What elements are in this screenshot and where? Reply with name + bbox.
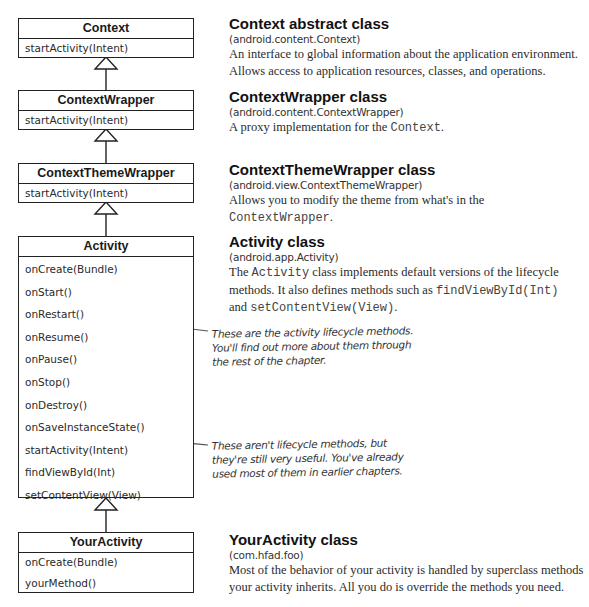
class-box-contextthemewrapper: ContextThemeWrapper startActivity(Intent… [18,163,194,203]
code-text: Context [390,121,440,135]
description-package: (com.hfad.foo) [229,548,589,562]
method-yourmethod: yourMethod() [19,573,193,593]
description-title: Activity class [229,233,569,250]
class-name: ContextWrapper [19,91,193,111]
description-contextwrapper: ContextWrapper class (android.content.Co… [229,88,589,137]
body-text: . [394,300,397,314]
class-box-youractivity: YourActivity onCreate(Bundle) yourMethod… [18,532,194,593]
method-oncreate: onCreate(Bundle) [19,258,193,281]
inheritance-arrow-contextthemewrapper-to-contextwrapper [95,129,117,163]
method-findviewbyid: findViewById(Int) [19,461,193,484]
description-title: ContextThemeWrapper class [229,161,489,178]
description-package: (android.view.ContextThemeWrapper) [229,178,489,192]
method-onstart: onStart() [19,281,193,304]
code-text: findViewById(Int) [436,284,558,298]
body-text: A proxy implementation for the [229,120,390,134]
code-text: setContentView(View) [250,301,394,315]
annotation-line: used most of them in earlier chapters. [212,463,404,480]
body-text: . [441,120,444,134]
method-onstop: onStop() [19,371,193,394]
description-activity: Activity class (android.app.Activity) Th… [229,233,569,317]
method-ondestroy: onDestroy() [19,394,193,417]
body-text: Most of the behavior of your activity is… [229,563,583,594]
description-body: Most of the behavior of your activity is… [229,562,589,595]
method-onresume: onResume() [19,326,193,349]
lifecycle-methods-annotation: These are the activity lifecycle methods… [212,323,414,369]
description-youractivity: YourActivity class (com.hfad.foo) Most o… [229,531,589,595]
description-body: The Activity class implements default ve… [229,264,569,317]
utility-methods-annotation: These aren't lifecycle methods, but they… [212,435,404,480]
description-body: An interface to global information about… [229,46,589,79]
body-text: and [229,300,250,314]
description-body: A proxy implementation for the Context. [229,119,589,137]
method-setcontentview: setContentView(View) [19,484,193,507]
code-text: ContextWrapper [229,211,330,225]
description-package: (android.content.Context) [229,32,589,46]
code-text: Activity [252,266,310,280]
description-title: ContextWrapper class [229,88,589,105]
description-package: (android.content.ContextWrapper) [229,105,589,119]
method: startActivity(Intent) [19,111,193,129]
description-contextthemewrapper: ContextThemeWrapper class (android.view.… [229,161,489,226]
description-title: Context abstract class [229,15,589,32]
body-text: The [229,265,252,279]
method: startActivity(Intent) [19,184,193,202]
class-box-activity: Activity onCreate(Bundle) onStart() onRe… [18,236,194,498]
method-startactivity: startActivity(Intent) [19,439,193,462]
class-name: YourActivity [19,533,193,553]
body-text: An interface to global information about… [229,47,578,78]
annotation-line: the rest of the chapter. [212,351,414,369]
class-name: Activity [19,237,193,257]
description-body: Allows you to modify the theme from what… [229,192,489,226]
class-box-context: Context startActivity(Intent) [18,18,194,58]
method-oncreate: onCreate(Bundle) [19,553,193,573]
class-box-contextwrapper: ContextWrapper startActivity(Intent) [18,90,194,130]
description-package: (android.app.Activity) [229,250,569,264]
inheritance-arrow-activity-to-contextthemewrapper [95,202,117,236]
method: startActivity(Intent) [19,39,193,57]
inheritance-arrow-contextwrapper-to-context [95,57,117,90]
body-text: Allows you to modify the theme from what… [229,193,484,207]
class-name: ContextThemeWrapper [19,164,193,184]
method-onrestart: onRestart() [19,303,193,326]
description-title: YourActivity class [229,531,589,548]
description-context: Context abstract class (android.content.… [229,15,589,79]
method-onpause: onPause() [19,348,193,371]
body-text: . [330,210,333,224]
method-onsaveinstancestate: onSaveInstanceState() [19,416,193,439]
class-name: Context [19,19,193,39]
